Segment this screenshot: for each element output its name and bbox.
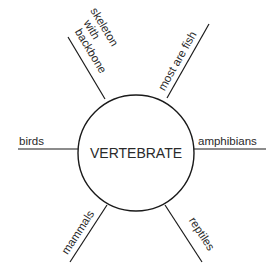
branch-label-reptiles: reptiles — [187, 215, 217, 253]
branch-label-skeleton: backbone with skeleton — [68, 5, 130, 75]
svg-text:reptiles: reptiles — [187, 215, 217, 253]
branch-label-birds: birds — [19, 135, 44, 147]
branch-label-fish: most are fish — [156, 29, 199, 92]
svg-text:most are fish: most are fish — [156, 29, 199, 92]
concept-map: VERTEBRATE backbone with skeleton most a… — [0, 0, 277, 277]
branch-label-amphibians: amphibians — [198, 135, 257, 147]
center-label: VERTEBRATE — [90, 145, 182, 161]
